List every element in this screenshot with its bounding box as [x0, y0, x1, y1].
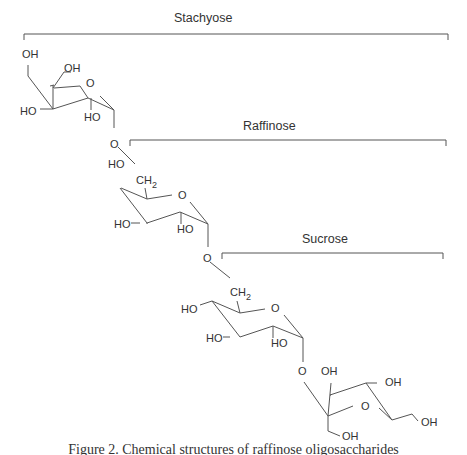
fructose-oh-top-right: OH — [385, 376, 402, 388]
ring2-bonds — [118, 147, 208, 247]
ring3-ho-top: HO — [181, 303, 198, 315]
sucrose-bracket — [222, 253, 443, 259]
ring1-bonds — [28, 65, 114, 128]
figure-caption: Figure 2. Chemical structures of raffino… — [0, 442, 467, 455]
ring2-ch2: CH2 — [136, 174, 157, 190]
ring2-ho-bottom: HO — [177, 223, 194, 235]
ring2-glyco-o: O — [203, 252, 212, 264]
ring1-oh-top: OH — [22, 48, 39, 60]
ring3-ch2: CH2 — [230, 286, 251, 302]
ring1-glyco-o: O — [110, 138, 119, 150]
raffinose-bracket — [130, 140, 446, 146]
fructose-ring-o: O — [361, 400, 370, 412]
oligosaccharide-structure-diagram: Stachyose Raffinose Sucrose OH OH O HO H… — [0, 0, 467, 455]
fructose-oh-top-left: OH — [321, 365, 338, 377]
stachyose-bracket — [24, 34, 448, 40]
ring1-ho-bottom: HO — [84, 111, 101, 123]
ring3-bonds — [200, 262, 303, 362]
ring1-ho-left: HO — [20, 105, 37, 117]
sucrose-label: Sucrose — [302, 232, 348, 246]
ring2-ho-left: HO — [114, 218, 131, 230]
ring3-ho-left: HO — [206, 332, 223, 344]
ring1-oh-ch2: OH — [64, 62, 81, 74]
ring2-ring-o: O — [178, 189, 187, 201]
ring1-ring-o: O — [86, 77, 95, 89]
stachyose-label: Stachyose — [174, 11, 232, 25]
caption-container: Figure 2. Chemical structures of raffino… — [0, 438, 467, 455]
ring3-ho-bottom: HO — [271, 337, 288, 349]
ring2-ho-top: HO — [108, 158, 125, 170]
ring3-glyco-o: O — [298, 365, 307, 377]
raffinose-label: Raffinose — [243, 119, 296, 133]
ring3-ring-o: O — [271, 302, 280, 314]
fructose-oh-right: OH — [421, 416, 438, 428]
